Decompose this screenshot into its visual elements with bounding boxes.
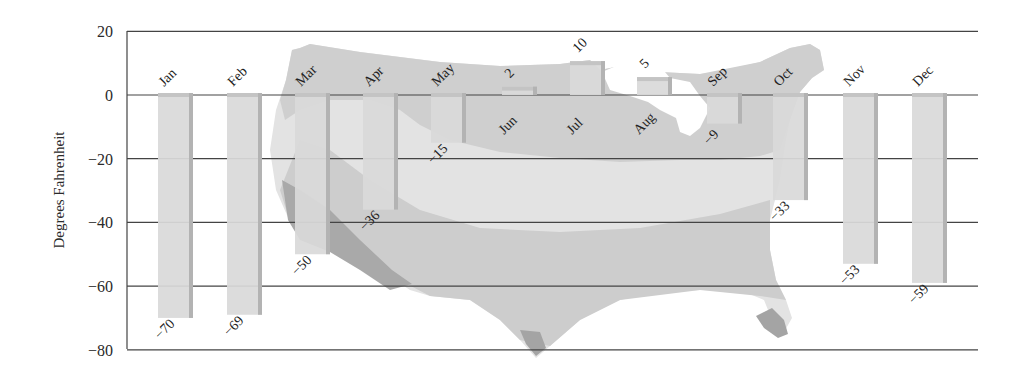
y-tick-label: −80	[88, 342, 113, 359]
y-tick-label: 0	[105, 87, 113, 104]
y-tick-labels: 200−20−40−60−80	[88, 23, 113, 359]
bar-may	[431, 93, 466, 143]
y-tick-label: −20	[88, 151, 113, 168]
value-label: −69	[221, 313, 247, 339]
bar-apr	[363, 93, 398, 210]
value-label: −70	[152, 316, 178, 342]
month-label: Jan	[156, 65, 180, 89]
y-axis-title: Degrees Fahrenheit	[51, 131, 67, 249]
value-label: −53	[837, 262, 863, 288]
y-tick-label: −60	[88, 278, 113, 295]
chart: 200−20−40−60−80 Degrees Fahrenheit JanFe…	[0, 0, 1010, 373]
bar-jan	[158, 93, 193, 318]
y-tick-label: −40	[88, 214, 113, 231]
value-label: 10	[570, 35, 591, 56]
month-label: Feb	[225, 64, 250, 89]
bar-nov	[843, 93, 878, 264]
month-label: Nov	[841, 61, 869, 89]
bar-mar	[295, 93, 330, 254]
bar-sep	[707, 93, 742, 124]
month-label: Dec	[910, 63, 937, 90]
bar-feb	[227, 93, 262, 315]
bar-jun	[502, 87, 537, 95]
value-label: −59	[906, 281, 932, 307]
us-map-background	[270, 44, 824, 358]
bar-aug	[637, 77, 672, 95]
y-tick-label: 20	[97, 23, 113, 40]
bar-jul	[570, 61, 605, 95]
value-label: −50	[289, 252, 315, 278]
bar-oct	[773, 93, 808, 200]
bar-dec	[912, 93, 947, 283]
